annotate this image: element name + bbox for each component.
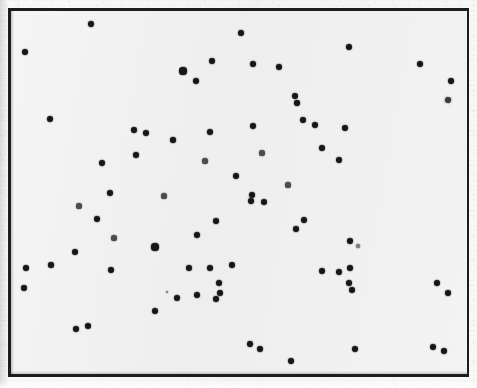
- plot-frame-border: [8, 8, 469, 377]
- scatter-plot-figure: [0, 0, 477, 388]
